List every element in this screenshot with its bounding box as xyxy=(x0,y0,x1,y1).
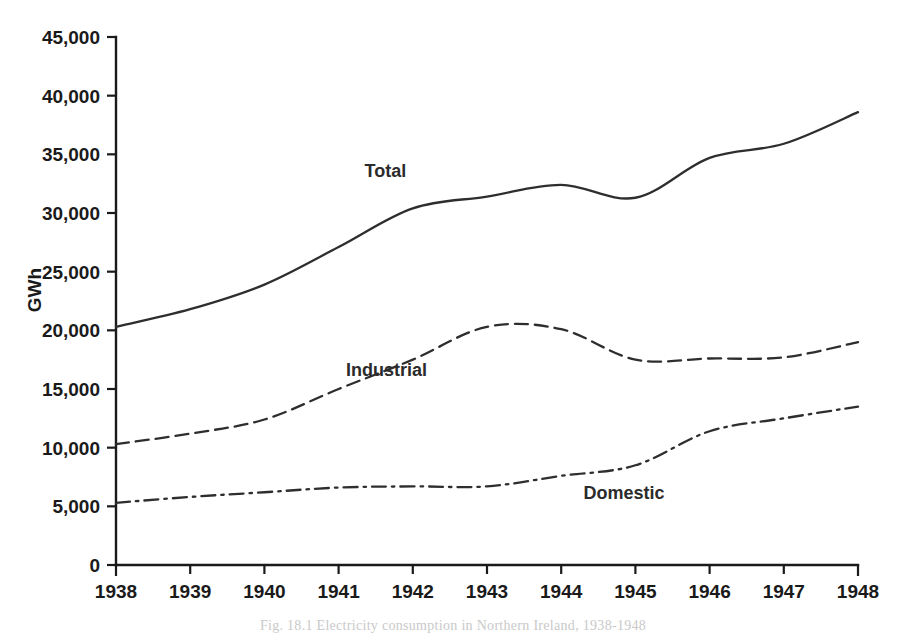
y-tick-label: 40,000 xyxy=(42,86,100,107)
x-tick-label: 1943 xyxy=(466,581,508,602)
y-tick-label: 0 xyxy=(89,555,100,576)
x-tick-label: 1946 xyxy=(688,581,730,602)
x-axis-ticks: 1938193919401941194219431944194519461947… xyxy=(95,565,879,602)
series-line-total xyxy=(116,112,858,327)
x-tick-label: 1939 xyxy=(169,581,211,602)
x-tick-label: 1948 xyxy=(837,581,879,602)
x-tick-label: 1938 xyxy=(95,581,137,602)
x-tick-label: 1945 xyxy=(614,581,657,602)
y-tick-label: 30,000 xyxy=(42,203,100,224)
series-line-industrial xyxy=(116,324,858,444)
y-tick-label: 20,000 xyxy=(42,320,100,341)
y-tick-label: 10,000 xyxy=(42,438,100,459)
series-label-total: Total xyxy=(365,161,407,181)
x-tick-label: 1947 xyxy=(763,581,805,602)
y-tick-label: 35,000 xyxy=(42,144,100,165)
x-tick-label: 1944 xyxy=(540,581,583,602)
y-tick-label: 5,000 xyxy=(52,496,100,517)
y-axis-title: GWh xyxy=(24,268,45,312)
x-tick-label: 1941 xyxy=(317,581,360,602)
y-tick-label: 25,000 xyxy=(42,262,100,283)
series-label-industrial: Industrial xyxy=(346,360,427,380)
series-label-group: TotalIndustrialDomestic xyxy=(346,161,664,504)
chart-figure: 05,00010,00015,00020,00025,00030,00035,0… xyxy=(0,0,906,638)
line-chart: 05,00010,00015,00020,00025,00030,00035,0… xyxy=(0,0,906,638)
y-tick-label: 15,000 xyxy=(42,379,100,400)
y-axis-ticks: 05,00010,00015,00020,00025,00030,00035,0… xyxy=(42,27,116,576)
data-series-group xyxy=(116,112,858,503)
figure-caption: Fig. 18.1 Electricity consumption in Nor… xyxy=(0,618,906,638)
y-tick-label: 45,000 xyxy=(42,27,100,48)
x-tick-label: 1940 xyxy=(243,581,285,602)
series-label-domestic: Domestic xyxy=(583,483,664,503)
series-line-domestic xyxy=(116,407,858,503)
x-tick-label: 1942 xyxy=(392,581,434,602)
